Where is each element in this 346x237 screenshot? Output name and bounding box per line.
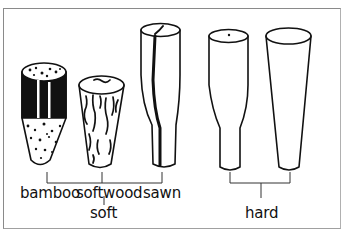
label-hard: hard [245, 206, 278, 221]
sawn-peg [141, 24, 180, 168]
label-sawn: sawn [143, 186, 181, 201]
label-soft: soft [90, 206, 117, 221]
hard-peg-1 [209, 30, 248, 171]
hard-peg-2 [266, 28, 311, 170]
softwood-peg [79, 76, 124, 168]
hard-group-bracket [230, 172, 290, 183]
soft-group-bracket [47, 172, 162, 183]
label-softwood: softwood [76, 186, 142, 201]
label-bamboo: bamboo [20, 186, 80, 201]
bamboo-peg [22, 63, 66, 165]
